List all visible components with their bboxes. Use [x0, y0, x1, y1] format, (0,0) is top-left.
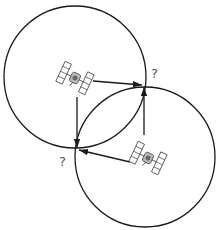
arrow-sat2-to-lower-intersection — [79, 150, 130, 162]
satellite-icon — [129, 141, 167, 174]
satellite-ranging-diagram — [0, 0, 216, 230]
satellite-icon — [56, 61, 94, 94]
arrow-sat1-to-upper-intersection — [93, 81, 142, 85]
lower-intersection-label: ? — [59, 155, 66, 168]
upper-intersection-label: ? — [151, 67, 158, 80]
